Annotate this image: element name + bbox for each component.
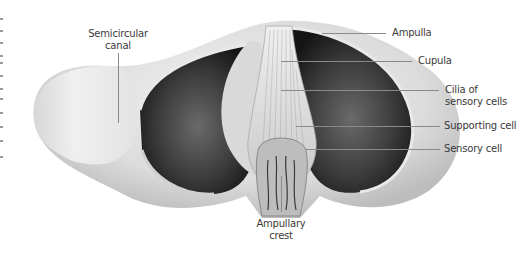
leader-ampullary-crest [281,176,282,212]
leader-semicircular-canal [118,53,119,123]
leader-supporting-cell [296,126,440,127]
leader-sensory-cell [305,149,440,150]
leader-cilia [281,90,439,91]
label-ampullary-crest: Ampullary crest [256,218,305,242]
anatomical-figure: Semicircular canal Ampulla Cupula Cilia … [0,0,530,254]
leader-ampulla [322,33,386,34]
label-ampulla: Ampulla [392,27,432,39]
label-semicircular-canal: Semicircular canal [88,28,148,52]
label-supporting-cell: Supporting cell [444,120,516,132]
label-cilia: Cilia of sensory cells [445,84,507,108]
leader-cupula [281,61,412,62]
label-sensory-cell: Sensory cell [444,143,502,155]
label-cupula: Cupula [418,55,452,67]
